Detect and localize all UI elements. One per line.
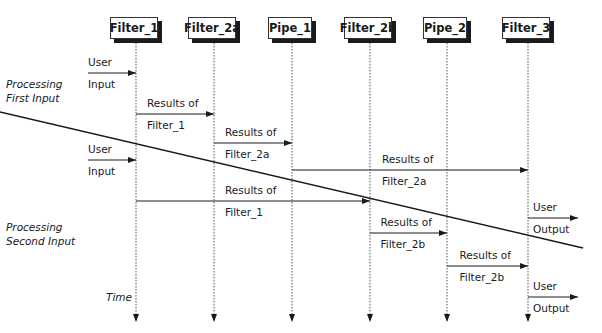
message-label-bottom: Input xyxy=(88,78,115,90)
component-box-filter_2b: Filter_2b xyxy=(344,17,392,39)
component-box-pipe_2: Pipe_2 xyxy=(423,17,467,39)
component-box-pipe_1: Pipe_1 xyxy=(268,17,312,39)
component-box-filter_2a: Filter_2a xyxy=(188,17,236,39)
message-label-bottom: Filter_1 xyxy=(147,119,185,131)
processing-second-input-label: Processing Second Input xyxy=(6,220,75,248)
input-divider-line xyxy=(0,112,583,248)
message-label-top: Results of xyxy=(225,126,276,138)
message-label-bottom: Filter_2b xyxy=(460,271,505,283)
message-label-top: User xyxy=(88,143,112,155)
message-label-bottom: Filter_1 xyxy=(225,206,263,218)
message-label-top: Results of xyxy=(460,249,511,261)
message-label-bottom: Output xyxy=(533,302,569,314)
message-label-top: Results of xyxy=(225,184,276,196)
component-box-filter_1: Filter_1 xyxy=(110,17,158,39)
message-label-top: User xyxy=(533,280,557,292)
time-label: Time xyxy=(106,290,132,304)
message-label-bottom: Output xyxy=(533,223,569,235)
message-label-top: User xyxy=(88,56,112,68)
message-label-bottom: Filter_2b xyxy=(381,238,426,250)
message-label-top: Results of xyxy=(382,153,433,165)
component-box-filter_3: Filter_3 xyxy=(502,17,550,39)
message-label-bottom: Filter_2a xyxy=(225,148,269,160)
processing-first-input-label: Processing First Input xyxy=(6,77,62,105)
message-label-bottom: Filter_2a xyxy=(382,175,426,187)
message-label-top: Results of xyxy=(381,216,432,228)
message-label-top: Results of xyxy=(147,97,198,109)
message-label-top: User xyxy=(533,201,557,213)
message-label-bottom: Input xyxy=(88,165,115,177)
